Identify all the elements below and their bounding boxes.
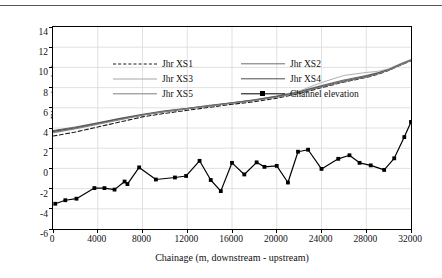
y-axis-tick-labels: 14121086420-2-4-6	[18, 26, 48, 230]
legend-swatch-icon	[113, 74, 157, 84]
data-point-marker	[320, 167, 324, 171]
x-axis-tick-labels: 040008000120001600020000240002800032000	[52, 234, 412, 248]
data-point-marker	[173, 176, 177, 180]
y-axis-tick	[49, 67, 53, 68]
x-axis-tick	[321, 229, 322, 233]
y-axis-tick-label-text: 10	[22, 68, 48, 78]
legend-label: Jhr XS4	[290, 74, 321, 84]
y-axis-tick-label: -2	[22, 183, 48, 201]
y-axis-tick-label: 14	[22, 21, 48, 39]
x-axis-tick-label: 8000	[132, 234, 151, 244]
data-point-marker	[113, 188, 117, 192]
figure: Elevation (m) 14121086420-2-4-6 Jhr XS1J…	[0, 0, 442, 278]
x-axis-tick	[411, 229, 412, 233]
x-axis-tick-label: 24000	[309, 234, 333, 244]
data-point-marker	[255, 160, 259, 164]
data-point-marker	[137, 165, 141, 169]
data-point-marker	[286, 181, 290, 185]
data-point-marker	[263, 165, 267, 169]
legend-swatch-icon	[241, 74, 285, 84]
legend-label: Jhr XS2	[290, 59, 321, 69]
x-axis-tick	[232, 229, 233, 233]
data-point-marker	[348, 153, 352, 157]
legend-label: Jhr XS5	[162, 89, 193, 99]
y-axis-tick-label: 4	[22, 122, 48, 140]
legend-swatch-icon	[241, 89, 285, 99]
data-point-marker	[92, 186, 96, 190]
y-axis-tick	[49, 168, 53, 169]
x-axis-tick	[97, 229, 98, 233]
y-axis-tick-label-text: -2	[22, 190, 48, 200]
data-point-marker	[103, 186, 107, 190]
x-axis-tick	[53, 229, 54, 233]
y-axis-tick-label-text: 4	[22, 129, 48, 139]
data-point-marker	[402, 135, 406, 139]
data-point-marker	[75, 197, 79, 201]
y-axis-tick	[49, 87, 53, 88]
x-axis-tick	[366, 229, 367, 233]
data-point-marker	[296, 150, 300, 154]
y-axis-tick	[49, 128, 53, 129]
data-point-marker	[53, 202, 57, 206]
y-axis-tick-label: 12	[22, 41, 48, 59]
legend-line	[113, 63, 157, 64]
y-axis-tick-label: -6	[22, 223, 48, 241]
data-point-marker	[219, 189, 223, 193]
data-point-marker	[369, 163, 373, 167]
plot-area: Jhr XS1Jhr XS2Jhr XS3Jhr XS4Jhr XS5Chann…	[52, 26, 412, 230]
data-point-marker	[230, 161, 234, 165]
legend-label: Channel elevation	[290, 89, 359, 99]
data-point-marker	[358, 161, 362, 165]
legend-item-channel-elevation[interactable]: Channel elevation	[241, 86, 403, 101]
legend-item-jhr-xs1[interactable]: Jhr XS1	[113, 56, 241, 71]
y-axis-tick	[49, 188, 53, 189]
y-axis-tick	[49, 208, 53, 209]
x-axis-tick-label: 12000	[174, 234, 198, 244]
y-axis-tick	[49, 27, 53, 28]
x-axis-tick-label: 20000	[264, 234, 288, 244]
data-point-marker	[126, 182, 130, 186]
legend-item-jhr-xs2[interactable]: Jhr XS2	[241, 56, 403, 71]
y-axis-tick-label-text: 6	[22, 109, 48, 119]
x-axis-tick-label: 28000	[353, 234, 377, 244]
data-point-marker	[409, 120, 411, 124]
data-point-marker	[198, 159, 202, 163]
y-axis-tick-label-text: 14	[22, 28, 48, 38]
data-point-marker	[392, 156, 396, 160]
legend: Jhr XS1Jhr XS2Jhr XS3Jhr XS4Jhr XS5Chann…	[113, 56, 403, 101]
data-point-marker	[184, 174, 188, 178]
data-point-marker	[209, 178, 213, 182]
data-point-marker	[63, 198, 67, 202]
legend-item-jhr-xs4[interactable]: Jhr XS4	[241, 71, 403, 86]
legend-swatch-icon	[241, 59, 285, 69]
x-axis-tick-label: 4000	[87, 234, 106, 244]
x-axis-tick-label: 16000	[219, 234, 243, 244]
legend-line	[113, 93, 157, 94]
legend-item-jhr-xs5[interactable]: Jhr XS5	[113, 86, 241, 101]
data-point-marker	[242, 173, 246, 177]
legend-item-jhr-xs3[interactable]: Jhr XS3	[113, 71, 241, 86]
y-axis-tick	[49, 148, 53, 149]
legend-line	[241, 78, 285, 79]
legend-label: Jhr XS1	[162, 59, 193, 69]
y-axis-tick-label: 2	[22, 142, 48, 160]
y-axis-tick-label: 10	[22, 61, 48, 79]
x-axis-tick-label: 0	[50, 234, 55, 244]
data-point-marker	[336, 157, 340, 161]
page-top-rule	[0, 5, 442, 6]
y-axis-tick	[49, 107, 53, 108]
data-point-marker	[275, 164, 279, 168]
legend-line	[113, 78, 157, 79]
x-axis-tick	[276, 229, 277, 233]
y-axis-tick-label-text: -6	[22, 230, 48, 240]
y-axis-tick-label: 6	[22, 102, 48, 120]
y-axis-tick-label-text: 0	[22, 169, 48, 179]
y-axis-tick-label-text: 8	[22, 89, 48, 99]
y-axis-tick-label: -4	[22, 203, 48, 221]
y-axis-tick-label: 0	[22, 162, 48, 180]
x-axis-tick-label: 32000	[398, 234, 422, 244]
x-axis-title: Chainage (m, downstream - upstream)	[52, 252, 412, 263]
legend-marker-square	[260, 91, 265, 96]
legend-swatch-icon	[113, 59, 157, 69]
y-axis-tick-label-text: -4	[22, 210, 48, 220]
